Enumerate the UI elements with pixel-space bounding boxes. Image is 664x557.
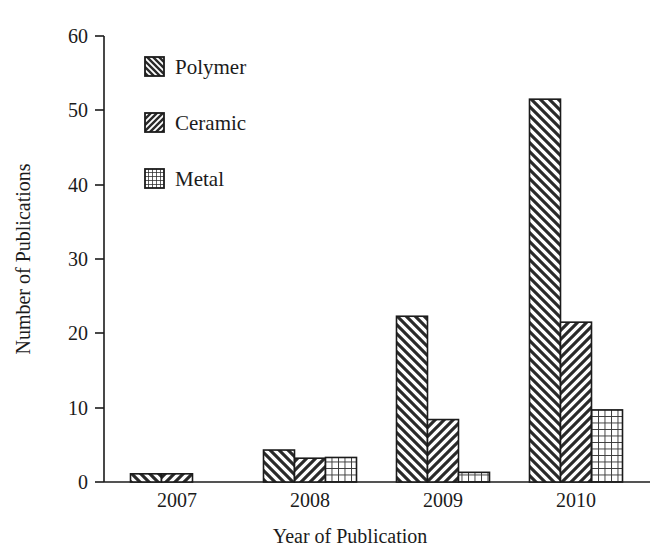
y-tick-label-50: 50 bbox=[68, 99, 88, 121]
bar-polymer-2008 bbox=[264, 450, 295, 482]
y-axis-title: Number of Publications bbox=[12, 163, 34, 354]
y-tick-label-60: 60 bbox=[68, 25, 88, 47]
chart-canvas: 60 50 40 30 20 10 0 Number of Publicatio… bbox=[0, 0, 664, 557]
y-tick-label-0: 0 bbox=[78, 471, 88, 493]
y-axis: 60 50 40 30 20 10 0 Number of Publicatio… bbox=[12, 25, 104, 493]
legend-label-ceramic: Ceramic bbox=[175, 111, 246, 135]
legend-item-metal[interactable]: Metal bbox=[145, 167, 224, 191]
legend-item-polymer[interactable]: Polymer bbox=[145, 55, 246, 79]
bar-ceramic-2007 bbox=[162, 474, 193, 482]
diagonal-backslash-hatch-icon bbox=[145, 57, 164, 76]
bars-layer bbox=[131, 99, 623, 482]
y-tick-label-10: 10 bbox=[68, 397, 88, 419]
y-axis-tick-labels: 60 50 40 30 20 10 0 bbox=[68, 25, 88, 493]
y-tick-label-20: 20 bbox=[68, 322, 88, 344]
bar-metal-2010 bbox=[592, 410, 623, 482]
bar-metal-2009 bbox=[459, 472, 490, 482]
bar-ceramic-2008 bbox=[295, 458, 326, 482]
diagonal-forwardslash-hatch-icon bbox=[145, 113, 164, 132]
bar-metal-2008 bbox=[326, 457, 357, 482]
x-axis-tick-labels: 2007 2008 2009 2010 bbox=[157, 489, 596, 511]
legend-label-polymer: Polymer bbox=[175, 55, 246, 79]
bar-polymer-2010 bbox=[530, 99, 561, 482]
bar-polymer-2009 bbox=[397, 316, 428, 482]
crosshatch-grid-icon bbox=[145, 169, 164, 188]
y-tick-label-40: 40 bbox=[68, 174, 88, 196]
chart-legend: Polymer Ceramic Metal bbox=[145, 55, 246, 191]
bar-polymer-2007 bbox=[131, 474, 162, 482]
x-axis: 2007 2008 2009 2010 Year of Publication bbox=[104, 482, 650, 547]
bar-chart-figure: 60 50 40 30 20 10 0 Number of Publicatio… bbox=[0, 0, 664, 557]
y-tick-label-30: 30 bbox=[68, 248, 88, 270]
legend-item-ceramic[interactable]: Ceramic bbox=[145, 111, 246, 135]
bar-ceramic-2010 bbox=[561, 322, 592, 482]
y-axis-ticks bbox=[95, 36, 104, 482]
x-tick-label-2008: 2008 bbox=[290, 489, 330, 511]
x-axis-title: Year of Publication bbox=[273, 525, 428, 547]
legend-label-metal: Metal bbox=[175, 167, 224, 191]
x-tick-label-2007: 2007 bbox=[157, 489, 197, 511]
x-tick-label-2009: 2009 bbox=[423, 489, 463, 511]
bar-ceramic-2009 bbox=[428, 420, 459, 482]
x-tick-label-2010: 2010 bbox=[556, 489, 596, 511]
